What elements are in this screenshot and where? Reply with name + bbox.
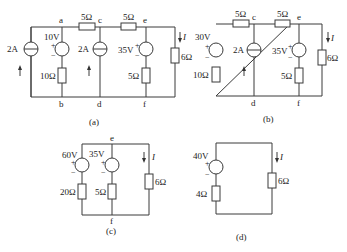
panel-d: 40V + − 4Ω 6Ω I (d) xyxy=(193,143,290,242)
load-resistor xyxy=(171,48,179,63)
voltage-source-icon xyxy=(139,42,153,56)
panel-d-wires xyxy=(216,143,272,214)
panel-c: 60V + − 20Ω 35V + − 5Ω e f 6Ω I (c) xyxy=(60,133,167,236)
voltage-source-icon xyxy=(75,158,89,172)
plus-sign: + xyxy=(71,158,76,167)
resistor-left xyxy=(212,67,220,82)
caption-b: (b) xyxy=(263,114,274,124)
minus-sign: − xyxy=(51,51,56,60)
circuit-figure: 2A 10V + − 10Ω a b 5Ω 2A c d xyxy=(0,0,347,252)
resistor-ef xyxy=(295,68,303,83)
resistor-ce xyxy=(275,20,290,27)
panel-b: 30V + − 10Ω 5Ω 2A c d 5Ω 35V + − xyxy=(193,9,339,124)
minus-sign: − xyxy=(135,51,140,60)
label-resistor-ef: 5Ω xyxy=(95,187,107,197)
panel-a: 2A 10V + − 10Ω a b 5Ω 2A c d xyxy=(7,12,193,127)
resistor-ac xyxy=(79,23,95,30)
label-load-current: I xyxy=(330,33,335,43)
label-load-resistor: 6Ω xyxy=(278,176,290,186)
resistor-series xyxy=(212,186,220,201)
label-load-current: I xyxy=(151,152,156,162)
label-load-resistor: 6Ω xyxy=(181,52,193,62)
node-c: c xyxy=(252,12,256,22)
arrow-up-icon xyxy=(18,65,22,76)
current-source-icon xyxy=(24,42,38,56)
minus-sign: − xyxy=(101,168,106,177)
minus-sign: − xyxy=(205,170,210,179)
plus-sign: + xyxy=(135,41,140,50)
plus-sign: + xyxy=(205,42,210,51)
arrow-down-icon xyxy=(178,32,182,43)
label-voltage-source-left: 30V xyxy=(195,32,211,42)
label-resistor-left: 10Ω xyxy=(193,70,209,80)
label-resistor-ab: 10Ω xyxy=(40,71,56,81)
label-resistor-ce: 5Ω xyxy=(277,9,289,19)
node-d: d xyxy=(251,98,256,108)
label-resistor-left: 20Ω xyxy=(60,187,76,197)
label-current-source-left: 2A xyxy=(7,44,19,54)
current-source-icon xyxy=(247,43,261,57)
panel-b-wires xyxy=(216,24,322,96)
node-f: f xyxy=(297,98,300,108)
node-e: e xyxy=(297,12,301,22)
label-load-current: I xyxy=(279,152,284,162)
voltage-source-icon xyxy=(209,43,223,57)
voltage-source-icon xyxy=(105,158,119,172)
label-resistor-ef: 5Ω xyxy=(281,71,293,81)
resistor-ef xyxy=(142,68,150,83)
minus-sign: − xyxy=(205,53,210,62)
resistor-ab xyxy=(58,68,66,83)
label-resistor-top-left: 5Ω xyxy=(235,9,247,19)
label-voltage-source-ef: 35V xyxy=(272,46,288,56)
label-resistor-ce: 5Ω xyxy=(123,12,135,22)
load-resistor xyxy=(318,50,326,65)
current-source-icon xyxy=(93,42,107,56)
node-a: a xyxy=(59,15,63,25)
node-f: f xyxy=(110,216,113,226)
arrow-down-icon xyxy=(142,152,146,163)
plus-sign: + xyxy=(205,159,210,168)
label-load-resistor: 6Ω xyxy=(327,53,339,63)
minus-sign: − xyxy=(288,53,293,62)
label-resistor-ac: 5Ω xyxy=(81,12,93,22)
plus-sign: + xyxy=(288,42,293,51)
minus-sign: − xyxy=(71,168,76,177)
resistor-left xyxy=(78,184,86,199)
arrow-up-icon xyxy=(87,65,91,76)
voltage-source-icon xyxy=(209,160,223,174)
load-resistor xyxy=(268,173,276,188)
node-e: e xyxy=(110,133,114,143)
label-load-resistor: 6Ω xyxy=(155,177,167,187)
arrow-down-icon xyxy=(326,32,330,43)
node-e: e xyxy=(143,15,147,25)
resistor-ce xyxy=(121,23,136,30)
label-resistor-series: 4Ω xyxy=(196,189,208,199)
caption-a: (a) xyxy=(89,117,99,127)
label-voltage-source-left: 60V xyxy=(62,150,78,160)
resistor-top-left xyxy=(233,20,249,27)
label-load-current: I xyxy=(182,32,187,42)
node-f: f xyxy=(143,99,146,109)
node-b: b xyxy=(59,99,64,109)
voltage-source-icon xyxy=(55,42,69,56)
voltage-source-icon xyxy=(292,43,306,57)
label-voltage-source-ef: 35V xyxy=(118,45,134,55)
arrow-down-icon xyxy=(275,152,279,163)
node-c: c xyxy=(98,15,102,25)
label-resistor-ef: 5Ω xyxy=(128,71,140,81)
resistor-ef xyxy=(108,184,116,199)
caption-c: (c) xyxy=(106,226,116,236)
label-current-source-cd: 2A xyxy=(78,44,90,54)
plus-sign: + xyxy=(101,158,106,167)
node-d: d xyxy=(97,99,102,109)
label-current-source-cd: 2A xyxy=(233,45,245,55)
load-resistor xyxy=(145,174,153,189)
plus-sign: + xyxy=(51,41,56,50)
caption-d: (d) xyxy=(236,232,247,242)
